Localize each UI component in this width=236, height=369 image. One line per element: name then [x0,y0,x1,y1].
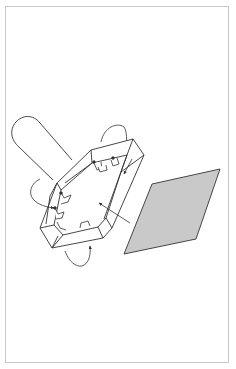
gray-plate [124,169,220,254]
rotation-arrow-bottom [65,246,90,266]
diagram-canvas [0,0,236,369]
cylinder [12,117,72,181]
